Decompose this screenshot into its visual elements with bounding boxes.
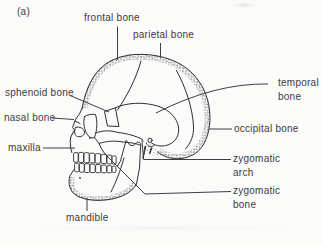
label-temporal-bone: temporal bone [278,76,323,104]
orbit [84,114,97,138]
stipple-shading [71,57,208,199]
label-nasal-bone: nasal bone [4,111,55,125]
label-frontal-bone: frontal bone [84,11,140,25]
ear-canal [148,138,152,142]
figure-skull-lateral: (a) frontal bone parietal bone temporal … [0,0,323,245]
temporal-region [115,103,179,146]
lambdoid-suture [177,71,194,150]
label-mandible: mandible [66,211,109,225]
coronal-suture [118,61,142,110]
zygomatic-arch-upper [96,131,143,140]
figure-letter: (a) [17,5,30,19]
teeth [74,152,117,172]
label-occipital-bone: occipital bone [234,122,299,136]
label-maxilla: maxilla [8,141,41,155]
leader-temporal-bone [156,84,268,113]
label-parietal-bone: parietal bone [133,28,194,42]
label-zygomatic-arch: zygomatic arch [233,152,295,180]
label-sphenoid-bone: sphenoid bone [5,86,74,100]
nasal-aperture [75,127,85,137]
label-zygomatic-bone: zygomatic bone [233,184,295,212]
